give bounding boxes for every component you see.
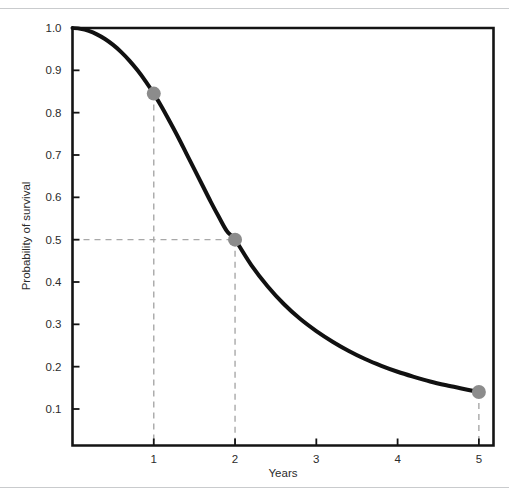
y-tick-label-0.1: 0.1 [46,403,62,415]
figure-root: 0.10.20.30.40.50.60.70.80.91.012345 Prob… [0,0,509,494]
data-point-marker-point-year-5 [472,385,486,399]
survival-curve-line [73,28,479,392]
survival-curve-plot: 0.10.20.30.40.50.60.70.80.91.012345 Prob… [0,0,509,494]
y-tick-label-0.7: 0.7 [46,149,62,161]
y-tick-label-0.2: 0.2 [46,361,62,373]
x-tick-label-1: 1 [151,453,157,465]
data-point-marker-point-median-survival [228,233,242,247]
data-point-marker-point-year-1 [147,87,161,101]
axis-ticks-layer [73,28,479,446]
x-tick-label-2: 2 [232,453,238,465]
y-tick-label-0.9: 0.9 [46,64,62,76]
axis-labels-layer: 0.10.20.30.40.50.60.70.80.91.012345 [46,22,483,465]
data-point-markers-layer [147,87,486,399]
x-axis-title: Years [269,467,298,479]
x-tick-label-5: 5 [476,453,482,465]
y-tick-label-0.6: 0.6 [46,191,62,203]
survival-curve-layer [73,28,479,392]
guide-lines-layer [73,94,479,446]
x-tick-label-4: 4 [394,453,401,465]
x-tick-label-3: 3 [313,453,319,465]
y-axis-title: Probability of survival [20,182,32,291]
y-tick-label-0.3: 0.3 [46,318,62,330]
y-tick-label-1.0: 1.0 [46,22,62,34]
y-tick-label-0.5: 0.5 [46,234,62,246]
y-tick-label-0.8: 0.8 [46,107,62,119]
y-tick-label-0.4: 0.4 [46,276,63,288]
